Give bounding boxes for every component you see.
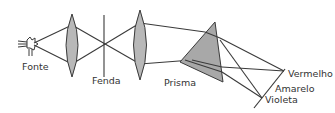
optical-dispersion-diagram: Fonte Fenda Prisma Vermelho Amarelo Viol… [0, 0, 335, 113]
ray-paths [34, 23, 205, 64]
label-source: Fonte [22, 61, 49, 72]
lens-2 [134, 10, 147, 80]
lens-1 [66, 14, 78, 77]
light-source-icon [18, 37, 38, 56]
label-yellow: Amarelo [275, 83, 315, 94]
label-violet: Violeta [265, 94, 298, 105]
label-red: Vermelho [288, 68, 333, 79]
label-slit: Fenda [92, 75, 121, 86]
label-prism: Prisma [164, 77, 196, 88]
